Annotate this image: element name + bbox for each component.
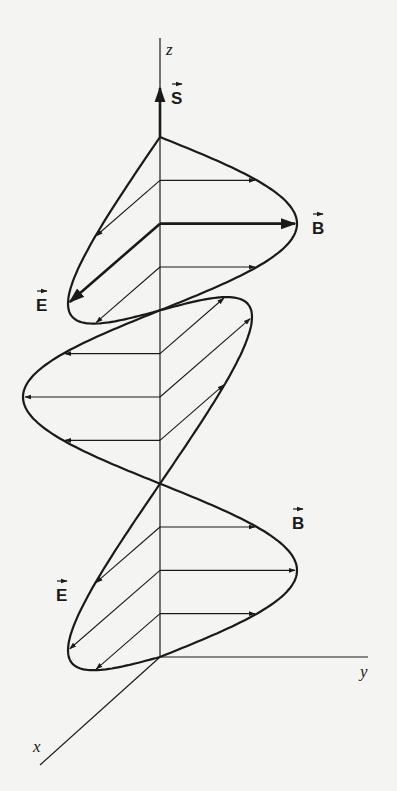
diagram-canvas: z y x S B E B E: [0, 0, 397, 791]
e-label-top-text: E: [36, 296, 47, 315]
electric-field-vector-arrow: [160, 385, 224, 440]
e-vector-label-top: E: [36, 291, 47, 315]
b-vector-label-bottom: B: [292, 509, 304, 533]
z-axis-label: z: [165, 40, 173, 59]
em-wave-diagram: z y x S B E B E: [0, 0, 397, 791]
electric-field-vector-arrow: [70, 224, 160, 302]
electric-field-vector-arrow: [70, 570, 160, 648]
electric-field-vector-arrow: [96, 527, 160, 582]
x-axis-label: x: [32, 737, 41, 756]
electric-field-vector-arrow: [96, 180, 160, 235]
electric-field-vector-arrow: [160, 319, 250, 397]
electric-field-vector-arrow: [96, 614, 160, 669]
e-label-bottom-text: E: [56, 586, 67, 605]
s-vector-label: S: [171, 84, 182, 108]
x-axis: [40, 657, 160, 765]
b-vector-label-top: B: [312, 214, 324, 238]
b-label-top-text: B: [312, 219, 324, 238]
labels-group: z y x S B E B E: [32, 40, 368, 756]
s-label-text: S: [171, 89, 182, 108]
e-vector-label-bottom: E: [56, 581, 67, 605]
y-axis-label: y: [358, 662, 368, 681]
b-label-bottom-text: B: [292, 514, 304, 533]
